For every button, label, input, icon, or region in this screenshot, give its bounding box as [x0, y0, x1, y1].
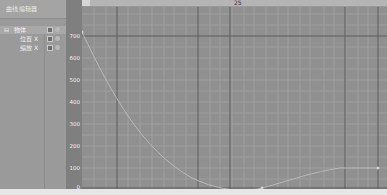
- lock-dot-icon[interactable]: [55, 36, 60, 41]
- outline-item-object[interactable]: ⊟ 物体: [0, 26, 66, 34]
- value-axis: 700 600 500 400 300 200 100 0: [66, 0, 82, 195]
- outline-item-position-x[interactable]: 位置 X: [0, 35, 66, 43]
- minor-grid: [82, 6, 387, 189]
- visibility-toggle-icon[interactable]: [47, 36, 53, 42]
- keyframe-point: [377, 167, 380, 170]
- bottom-strip: [0, 189, 387, 195]
- time-ruler[interactable]: 25: [82, 0, 387, 7]
- y-tick-label: 100: [70, 165, 81, 171]
- y-tick-label: 600: [70, 55, 81, 61]
- curve-graph-area[interactable]: [82, 0, 387, 189]
- expand-minus-icon[interactable]: ⊟: [4, 26, 9, 34]
- outline-header-title: 曲线编辑器: [6, 4, 38, 13]
- lock-dot-icon[interactable]: [55, 45, 60, 50]
- y-tick-label: 700: [70, 33, 81, 39]
- outline-item-label: 缩放 X: [20, 44, 38, 52]
- current-frame-label: 25: [234, 0, 242, 6]
- visibility-toggle-icon[interactable]: [47, 45, 53, 51]
- outline-item-label: 物体: [14, 26, 26, 34]
- keyframe-point: [82, 31, 84, 34]
- playhead-handle[interactable]: [82, 0, 90, 6]
- y-tick-label: 300: [70, 121, 81, 127]
- outline-item-scale-x[interactable]: 缩放 X: [0, 44, 66, 52]
- outline-panel: 曲线编辑器 ⊟ 物体 位置 X 缩放 X: [0, 0, 67, 195]
- y-tick-label: 500: [70, 77, 81, 83]
- y-tick-label: 400: [70, 99, 81, 105]
- lock-dot-icon[interactable]: [55, 27, 60, 32]
- curve-graph-svg[interactable]: [82, 0, 387, 189]
- outline-header: 曲线编辑器: [0, 0, 66, 19]
- y-tick-label: 200: [70, 143, 81, 149]
- outline-item-label: 位置 X: [20, 35, 38, 43]
- visibility-toggle-icon[interactable]: [47, 27, 53, 33]
